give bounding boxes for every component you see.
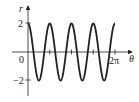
y-tick-label-2: 2 bbox=[18, 18, 23, 29]
chart: r θ 0 2 −2 2π bbox=[0, 0, 139, 102]
origin-label: 0 bbox=[19, 54, 24, 65]
y-tick-label-neg2: −2 bbox=[13, 75, 24, 86]
theta-axis-label: θ bbox=[129, 53, 134, 64]
x-tick-label-2pi: 2π bbox=[109, 55, 119, 66]
r-axis-label: r bbox=[19, 3, 23, 14]
